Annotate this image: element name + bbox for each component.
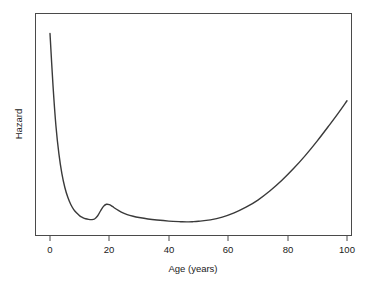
- x-tick-label-60: 60: [223, 244, 234, 255]
- chart-background: [0, 0, 376, 286]
- x-tick-label-40: 40: [164, 244, 175, 255]
- x-tick-label-80: 80: [283, 244, 294, 255]
- y-axis-label: Hazard: [13, 109, 24, 140]
- x-axis-label: Age (years): [168, 263, 217, 274]
- hazard-curve-chart: 0 20 40 60 80 100 Age (years) Hazard: [0, 0, 376, 286]
- x-tick-label-20: 20: [104, 244, 115, 255]
- x-tick-label-0: 0: [47, 244, 52, 255]
- x-tick-label-100: 100: [339, 244, 355, 255]
